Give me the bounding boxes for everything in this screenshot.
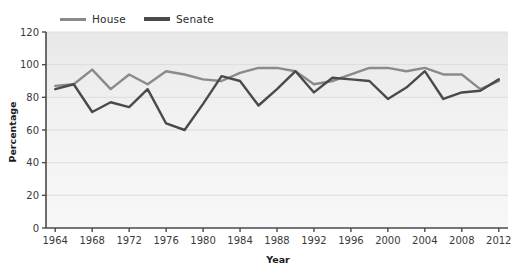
y-tick-label: 80	[26, 92, 39, 103]
y-tick-label: 0	[33, 223, 39, 234]
x-tick-label: 1968	[79, 235, 104, 246]
y-tick-label: 20	[26, 190, 39, 201]
x-tick-label: 1964	[43, 235, 68, 246]
x-tick-label: 1980	[190, 235, 215, 246]
x-tick-label: 1984	[227, 235, 252, 246]
y-tick-label: 120	[20, 27, 39, 38]
x-tick-label: 2004	[412, 235, 437, 246]
line-chart-svg: 0204060801001201964196819721976198019841…	[0, 0, 527, 268]
y-tick-label: 60	[26, 125, 39, 136]
y-tick-label: 100	[20, 59, 39, 70]
x-tick-label: 1976	[153, 235, 178, 246]
x-tick-label: 2012	[486, 235, 511, 246]
x-tick-label: 2008	[449, 235, 474, 246]
x-tick-label: 1992	[301, 235, 326, 246]
x-tick-label: 1996	[338, 235, 363, 246]
y-tick-label: 40	[26, 157, 39, 168]
x-axis-title: Year	[265, 254, 290, 265]
plot-area: 0204060801001201964196819721976198019841…	[0, 0, 527, 268]
x-tick-label: 1988	[264, 235, 289, 246]
x-tick-label: 2000	[375, 235, 400, 246]
x-tick-label: 1972	[116, 235, 141, 246]
chart-container: House Senate 020406080100120196419681972…	[0, 0, 527, 268]
y-axis-title: Percentage	[7, 101, 18, 162]
